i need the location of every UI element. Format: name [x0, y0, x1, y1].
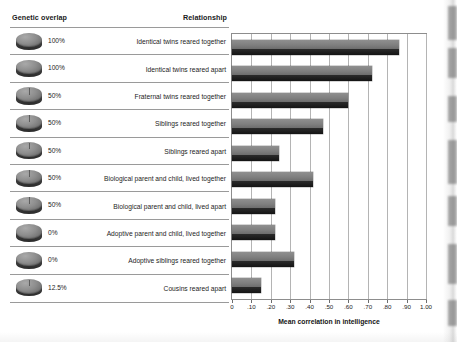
genetic-overlap-disk-icon: [16, 279, 42, 297]
genetic-overlap-value: 50%: [48, 147, 61, 154]
relationship-label: Fraternal twins reared together: [135, 93, 229, 100]
genetic-overlap-value: 50%: [48, 119, 61, 126]
disk-wedge-cut-line: [29, 143, 30, 150]
relationship-cell: Siblings reared apart: [86, 138, 229, 165]
genetic-overlap-disk-icon: [16, 115, 42, 133]
bar: [232, 225, 275, 240]
bar-slot: [232, 34, 426, 61]
genetic-overlap-value: 50%: [48, 174, 61, 181]
x-axis-tick-label: .50: [325, 303, 334, 310]
bar-chart-plot-area: [231, 33, 427, 300]
genetic-overlap-cell: 50%: [10, 165, 86, 192]
genetic-overlap-disk-icon: [16, 252, 42, 270]
genetic-overlap-cell: 100%: [10, 55, 86, 82]
bar-slot: [232, 273, 426, 300]
bar-slot: [232, 193, 426, 220]
bar: [232, 40, 399, 55]
bar-slot: [232, 114, 426, 141]
genetic-overlap-value: 100%: [48, 64, 65, 71]
bar: [232, 172, 313, 187]
bar: [232, 278, 261, 293]
genetic-overlap-value: 12.5%: [48, 284, 67, 291]
genetic-overlap-disk-icon: [16, 87, 42, 105]
column-header-genetic-overlap: Genetic overlap: [12, 13, 67, 22]
relationship-cell: Cousins reared apart: [86, 275, 229, 302]
bar: [232, 146, 279, 161]
relationship-cell: Adoptive siblings reared together: [86, 247, 229, 274]
genetic-overlap-value: 0%: [48, 229, 58, 236]
relationship-cell: Adoptive parent and child, lived togethe…: [86, 220, 229, 247]
table-row: 0%Adoptive siblings reared together: [10, 246, 229, 274]
x-axis-tick-label: 0: [230, 303, 233, 310]
x-axis-tick-label: .80: [383, 303, 392, 310]
table-row: 50%Siblings reared apart: [10, 137, 229, 165]
x-axis: 0.10.20.30.40.50.60.70.80.901.00: [231, 300, 427, 314]
genetic-overlap-disk-icon: [16, 197, 42, 215]
genetic-overlap-cell: 0%: [10, 220, 86, 247]
bar-slot: [232, 140, 426, 167]
disk-wedge-cut-line: [29, 88, 30, 95]
genetic-overlap-value: 0%: [48, 256, 58, 263]
table-row: 50%Siblings reared together: [10, 109, 229, 137]
genetic-overlap-disk-icon: [16, 60, 42, 78]
relationship-cell: Biological parent and child, lived toget…: [86, 165, 229, 192]
relationship-label: Identical twins reared together: [136, 38, 229, 45]
bar: [232, 119, 323, 134]
table-row: 50%Fraternal twins reared together: [10, 82, 229, 110]
relationship-table: 100%Identical twins reared together100%I…: [10, 27, 229, 301]
genetic-overlap-cell: 100%: [10, 28, 86, 55]
genetic-overlap-cell: 50%: [10, 138, 86, 165]
x-axis-tick-label: .30: [286, 303, 295, 310]
bar-slot: [232, 246, 426, 273]
x-axis-tick-label: .10: [247, 303, 256, 310]
genetic-overlap-value: 50%: [48, 201, 61, 208]
disk-top: [16, 224, 42, 239]
x-axis-title: Mean correlation in intelligence: [231, 318, 427, 325]
disk-wedge-cut-line: [29, 280, 30, 287]
x-axis-tick-label: .90: [402, 303, 411, 310]
disk-wedge-cut-line: [29, 115, 30, 122]
relationship-cell: Identical twins reared apart: [86, 55, 229, 82]
table-row: 100%Identical twins reared apart: [10, 54, 229, 82]
genetic-overlap-cell: 12.5%: [10, 275, 86, 302]
x-axis-tick-label: .60: [344, 303, 353, 310]
genetic-overlap-cell: 50%: [10, 110, 86, 137]
relationship-label: Biological parent and child, lived toget…: [104, 175, 229, 182]
bar-slot: [232, 61, 426, 88]
bar-slot: [232, 87, 426, 114]
disk-top: [16, 252, 42, 267]
relationship-label: Adoptive siblings reared together: [128, 257, 229, 264]
relationship-label: Siblings reared together: [155, 120, 229, 127]
bar: [232, 252, 294, 267]
table-row: 50%Biological parent and child, lived ap…: [10, 191, 229, 219]
relationship-cell: Fraternal twins reared together: [86, 83, 229, 110]
table-row: 12.5%Cousins reared apart: [10, 274, 229, 303]
gridline: [426, 34, 427, 299]
relationship-label: Cousins reared apart: [164, 285, 229, 292]
disk-wedge-cut-line: [29, 170, 30, 177]
relationship-label: Biological parent and child, lived apart: [113, 203, 229, 210]
genetic-overlap-value: 100%: [48, 37, 65, 44]
disk-top: [16, 33, 42, 48]
relationship-label: Identical twins reared apart: [146, 66, 229, 73]
bar-slot: [232, 167, 426, 194]
genetic-overlap-disk-icon: [16, 224, 42, 242]
disk-wedge-cut-line: [29, 197, 30, 204]
genetic-overlap-cell: 50%: [10, 83, 86, 110]
genetic-overlap-disk-icon: [16, 142, 42, 160]
genetic-overlap-value: 50%: [48, 92, 61, 99]
genetic-overlap-disk-icon: [16, 170, 42, 188]
genetic-overlap-cell: 50%: [10, 192, 86, 219]
x-axis-tick-label: .20: [266, 303, 275, 310]
bar: [232, 199, 275, 214]
relationship-cell: Biological parent and child, lived apart: [86, 192, 229, 219]
table-row: 100%Identical twins reared together: [10, 27, 229, 55]
genetic-overlap-disk-icon: [16, 33, 42, 51]
relationship-label: Siblings reared apart: [164, 148, 229, 155]
bar: [232, 93, 348, 108]
table-row: 50%Biological parent and child, lived to…: [10, 164, 229, 192]
table-row: 0%Adoptive parent and child, lived toget…: [10, 219, 229, 247]
x-axis-tick-label: .40: [305, 303, 314, 310]
relationship-cell: Siblings reared together: [86, 110, 229, 137]
bar-slot: [232, 220, 426, 247]
